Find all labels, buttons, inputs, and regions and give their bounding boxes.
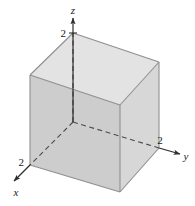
figure-canvas: z 2 y 2 x 2 [0,0,195,206]
y-axis-label: y [183,150,189,162]
x-tick-label: 2 [19,156,25,168]
z-axis-label: z [70,4,76,16]
cube-solid [30,33,159,192]
y-axis-line [159,148,180,154]
coordinate-cube-figure: z 2 y 2 x 2 [0,0,195,206]
z-tick-label: 2 [61,27,67,39]
y-tick-label: 2 [157,134,163,146]
x-axis-label: x [13,186,19,198]
